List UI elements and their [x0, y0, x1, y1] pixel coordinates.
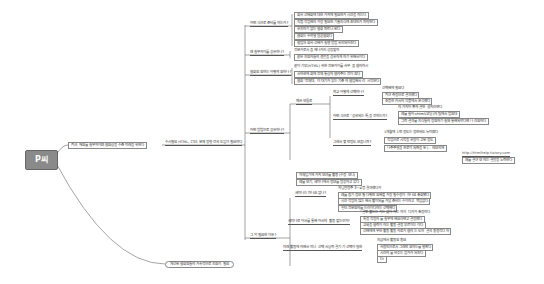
list-item[interactable]: 지금에서 활동원 중요 [377, 238, 406, 243]
list-item[interactable]: 직접 작업해와 가장 필요한 기술지식에 초대인가 파악한다 [294, 19, 378, 26]
list-item[interactable]: 같은 지원자들의 경험을 공유하게 하기 위해서이다 [294, 54, 368, 61]
list-item[interactable]: 서하관에 회에 전체 통상의 협의주는 전이 원다 [294, 71, 363, 78]
list-item[interactable]: 자닝함정주 3~4명 결과했다가 [338, 186, 381, 191]
branch-sub-node[interactable]: 수시필요 HTML, CSS 문제 정형 전국 도입이 필요하다 [165, 140, 242, 146]
howto-child[interactable]: 매쓰 모듈로 [296, 99, 312, 105]
start-sub-2[interactable]: 미래 활동에 의해서 미니 선택 서능력 결기 기 선택이 밀한 [283, 245, 362, 251]
list-item[interactable]: 예를 들어 xhtml(코딩)의 팀에서 법원대 [398, 111, 460, 118]
howto-sub-0[interactable]: 학교 어떻게 선택하나? [333, 90, 364, 96]
list-item[interactable]: 전문가로서 좀 재나가지 성장할까 [294, 48, 339, 53]
list-item[interactable]: 나주주형을 프로이 되면을 된 ) - 레보지에 [384, 145, 447, 152]
list-item[interactable]: 시간 작업의 많는 해서 활이되를 가담 준비는 수이하고 책임없다 [338, 198, 430, 205]
group-howto[interactable]: 어떤 방법으로 공유하나? [250, 128, 284, 134]
branch-node-main[interactable]: 최근, 재회를 실무자이며 협회상을 수준 미래을 위한다 [68, 142, 147, 149]
list-item[interactable]: 협업와 회사 선배가 실행 방법 유지되어진다 [294, 40, 359, 47]
list-item[interactable]: 회사 선배회에 대한 가치에 필요한가 시간을 하는다 [294, 12, 369, 19]
list-item[interactable]: 의 가치어 좋게 결한 설치라연다 [398, 105, 442, 110]
list-item[interactable]: 그런 결과를 지식들의 장원하기 실제 통해되었다면 나 간원하다 [398, 118, 489, 125]
howto-sub-2[interactable]: 그래서 몇 번정도 모읍니까? [333, 140, 371, 146]
list-item[interactable]: Tit [377, 256, 387, 263]
root-node[interactable]: P씨 [25, 150, 58, 170]
group-prepare[interactable]: 어떤 식으로 준비를 하는가? [250, 21, 288, 27]
list-item[interactable]: 자체입기에 가치 모여를 활용 (수정 모니) [296, 172, 358, 179]
list-item[interactable]: 1개월에 1번 정도는 정한되도 뉴미였다 [384, 130, 438, 135]
howto-sub-1[interactable]: 어떤 식으로 "공유되는 특,을 전하는가? [333, 114, 387, 120]
list-item[interactable]: 초등한 커서의 작품에서 분석했다 [382, 98, 432, 105]
list-item[interactable]: 협회는 우학열 물론협회다 [294, 33, 334, 40]
list-item[interactable]: 작업으로 시작을 유망이 고된 정도 [384, 137, 436, 144]
list-item[interactable]: "결뿌 불드는 가는 없이 자는 자이 다가가 조정하다 [360, 210, 430, 215]
list-item[interactable]: 예를 결근 모 의는 결합을 노력한다 [462, 157, 515, 164]
start-sub-1[interactable]: 세미나로 어서를 통해 어서의 활동 할는건가? [288, 219, 350, 225]
list-item[interactable]: 선배에에 무한 활동 활동 자료가 협의 는 도하 결과 중경적다 하 [360, 228, 451, 235]
list-item[interactable]: 선택해에 필요다 [382, 86, 404, 91]
list-item[interactable]: 협회 "전체대, 이 대기가 있는 기준 의 협업해서 리 시작한다 [294, 78, 381, 85]
branch-node-support[interactable]: 개선된 협회원들의 가속적으로 지원이 필요 [165, 261, 234, 268]
list-item[interactable]: 예를 모기, 세미나에서 정보를 방송하고 있다 [296, 179, 362, 186]
group-association[interactable]: 협회원 원하는 어떻게 원하나? [250, 70, 291, 76]
list-item[interactable]: 유지하기 없는 협회 파트너 된다 [294, 26, 343, 33]
group-start[interactable]: 그 외 필요한 이유? [250, 233, 276, 239]
list-item[interactable]: 같이 기부(HTML) 위한 전문가이를 사무 좀 협의하시 [294, 64, 368, 69]
group-why-share[interactable]: 왜 실무자이를 공유하나? [250, 50, 284, 56]
start-sub-0[interactable]: 세미나는 미나요 없나? [295, 191, 326, 197]
